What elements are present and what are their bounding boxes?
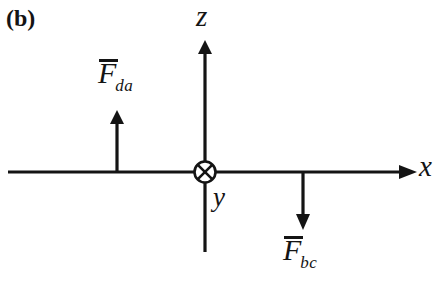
force-da-label: F da bbox=[98, 58, 134, 88]
diagram-canvas bbox=[0, 0, 438, 290]
y-axis-label: y bbox=[213, 184, 225, 211]
x-axis-label: x bbox=[419, 152, 432, 181]
force-bc-arrow bbox=[296, 172, 310, 230]
y-axis-into-page-icon bbox=[195, 162, 216, 183]
z-axis-arrowhead bbox=[198, 40, 212, 54]
force-da-arrow bbox=[110, 110, 124, 172]
panel-label: (b) bbox=[6, 6, 35, 30]
z-axis-label: z bbox=[196, 2, 207, 31]
force-da-subscript: da bbox=[115, 76, 133, 95]
force-bc-label: F bc bbox=[283, 235, 318, 265]
force-bc-symbol: F bbox=[283, 235, 301, 265]
force-da-symbol: F bbox=[98, 58, 116, 88]
physics-force-diagram: (b) z x y F da F bc bbox=[0, 0, 438, 290]
force-bc-overbar bbox=[284, 236, 303, 239]
force-da-overbar bbox=[99, 59, 118, 62]
x-axis-arrowhead bbox=[399, 165, 417, 179]
force-bc-subscript: bc bbox=[300, 253, 317, 272]
